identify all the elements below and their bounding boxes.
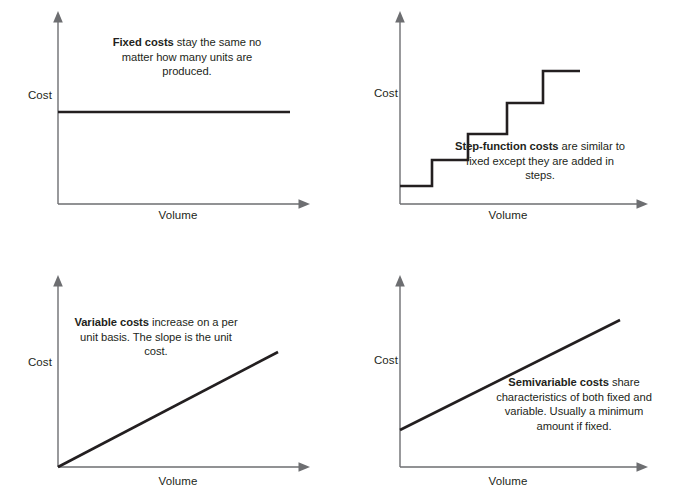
y-axis-label-cost: Cost [2,89,52,102]
step-function-costs-caption: Step-function costs are similar to fixed… [454,139,626,183]
variable-costs-plot [0,249,338,498]
y-axis-label-cost: Cost [2,356,52,369]
semivariable-costs-plot [338,249,676,498]
step-function-costs-caption-term: Step-function costs [455,140,558,152]
x-axis-arrowhead [299,462,311,472]
fixed-costs-caption-term: Fixed costs [113,36,174,48]
x-axis-label-volume: Volume [118,209,238,222]
semivariable-costs-caption: Semivariable costs share characteristics… [490,375,658,433]
y-axis-arrowhead [395,275,405,287]
chart-panel-semivariable-costs: Cost Volume Semivariable costs share cha… [338,249,676,498]
variable-cost-series-line [58,352,278,467]
chart-panel-fixed-costs: Cost Volume Fixed costs stay the same no… [0,0,338,249]
y-axis-arrowhead [53,11,63,23]
fixed-costs-caption: Fixed costs stay the same no matter how … [104,35,270,79]
x-axis-arrowhead [637,199,649,209]
x-axis-label-volume: Volume [118,475,238,488]
y-axis-label-cost: Cost [348,354,398,367]
cost-behavior-figure: Cost Volume Fixed costs stay the same no… [0,0,676,498]
y-axis-arrowhead [53,275,63,287]
chart-panel-variable-costs: Cost Volume Variable costs increase on a… [0,249,338,498]
y-axis-label-cost: Cost [348,87,398,100]
x-axis-label-volume: Volume [448,475,568,488]
y-axis-arrowhead [395,11,405,23]
variable-costs-caption: Variable costs increase on a per unit ba… [74,315,238,359]
x-axis-arrowhead [299,199,311,209]
x-axis-label-volume: Volume [448,209,568,222]
x-axis-arrowhead [637,462,649,472]
semivariable-costs-caption-term: Semivariable costs [508,376,608,388]
chart-panel-step-function-costs: Cost Volume Step-function costs are simi… [338,0,676,249]
variable-costs-caption-term: Variable costs [74,316,149,328]
